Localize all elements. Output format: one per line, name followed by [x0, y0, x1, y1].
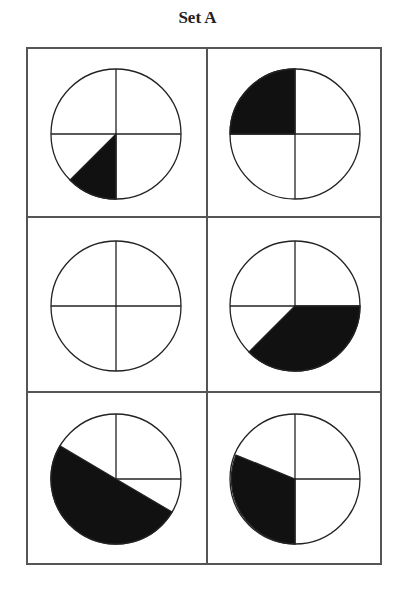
circle-6	[230, 414, 360, 544]
set-title: Set A	[0, 8, 395, 28]
circle-2	[230, 69, 360, 199]
circles-layer	[28, 49, 380, 563]
circle-1	[51, 69, 181, 199]
circle-4	[230, 241, 360, 371]
circle-5	[51, 414, 181, 544]
fraction-grid	[26, 47, 382, 565]
circle-3	[51, 241, 181, 371]
